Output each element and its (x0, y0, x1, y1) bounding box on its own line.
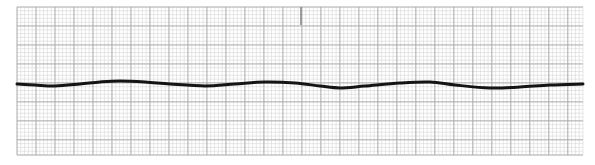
ecg-strip (0, 0, 595, 165)
